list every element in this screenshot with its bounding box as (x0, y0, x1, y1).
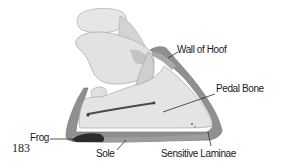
frog-label: Frog (30, 132, 49, 143)
wall-of-hoof-label: Wall of Hoof (177, 44, 227, 55)
sensitive-laminae-label: Sensitive Laminae (161, 148, 237, 159)
figure-number: 183 (12, 141, 30, 155)
hoof-diagram: Wall of Hoof Pedal Bone Frog Sole Sensit… (0, 0, 284, 168)
pedal-bone-label: Pedal Bone (216, 83, 265, 94)
sole-label: Sole (96, 148, 115, 159)
